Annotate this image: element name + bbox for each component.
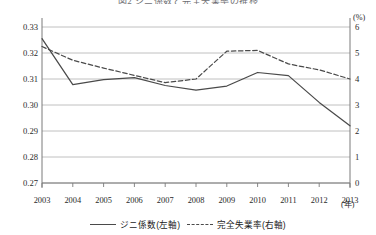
x-tick-2003: 2003 <box>25 197 59 205</box>
x-tick-2008: 2008 <box>179 197 213 205</box>
legend-label-gini: ジニ係数(左軸) <box>120 218 180 230</box>
legend-swatch-solid-line-icon <box>90 224 116 225</box>
x-tick-2007: 2007 <box>148 197 182 205</box>
y-right-tick-1: 1 <box>355 153 375 162</box>
y-left-tick-0.28: 0.28 <box>8 153 38 162</box>
y-left-tick-0.31: 0.31 <box>8 75 38 84</box>
x-tick-2011: 2011 <box>271 197 305 205</box>
figure-container: 図2 ジニ係数と完全失業率の推移 0.33 0.32 0.31 0.30 0.2… <box>0 0 376 235</box>
y-left-tick-0.27: 0.27 <box>8 179 38 188</box>
x-tick-2006: 2006 <box>117 197 151 205</box>
chart-legend: ジニ係数(左軸) 完全失業率(右軸) <box>0 218 376 230</box>
series-line-gini <box>42 39 350 126</box>
series-line-unemployment <box>42 47 350 83</box>
legend-item-unemployment[interactable]: 完全失業率(右軸) <box>187 218 286 230</box>
y-left-tick-0.32: 0.32 <box>8 49 38 58</box>
y-right-tick-6: 6 <box>355 23 375 32</box>
legend-swatch-dashed-line-icon <box>187 224 213 225</box>
y-left-tick-0.33: 0.33 <box>8 23 38 32</box>
y-left-tick-0.30: 0.30 <box>8 101 38 110</box>
y-right-unit-percent: (%) <box>353 13 365 22</box>
y-left-tick-0.29: 0.29 <box>8 127 38 136</box>
x-tick-2010: 2010 <box>241 197 275 205</box>
y-right-tick-0: 0 <box>355 179 375 188</box>
y-right-tick-4: 4 <box>355 75 375 84</box>
x-tick-2009: 2009 <box>210 197 244 205</box>
x-axis-unit-year: (年) <box>341 197 354 209</box>
x-tick-2005: 2005 <box>87 197 121 205</box>
y-right-tick-3: 3 <box>355 101 375 110</box>
y-right-tick-2: 2 <box>355 127 375 136</box>
legend-label-unemployment: 完全失業率(右軸) <box>217 218 286 230</box>
x-tick-2004: 2004 <box>56 197 90 205</box>
x-tick-2012: 2012 <box>302 197 336 205</box>
y-right-tick-5: 5 <box>355 49 375 58</box>
legend-item-gini[interactable]: ジニ係数(左軸) <box>90 218 180 230</box>
